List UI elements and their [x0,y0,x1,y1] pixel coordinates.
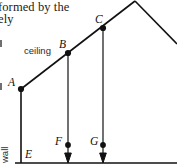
point-marker-c [100,25,106,31]
point-label-f: F [55,135,62,147]
rafter-right-line [135,1,177,44]
wall-label: wall [0,147,10,163]
force-arrowhead-f [65,153,72,163]
point-marker-a [18,86,24,92]
roof-truss-diagram [0,0,177,168]
point-marker-g [100,142,106,148]
point-label-c: C [95,13,103,25]
point-label-a: A [8,76,15,88]
point-label-b: B [59,38,66,50]
figure-page: formed by the ely [0,0,177,168]
point-label-g: G [90,135,98,147]
point-label-e: E [25,148,32,160]
ceiling-label: ceiling [24,45,51,56]
force-arrowhead-g [100,153,107,163]
point-marker-f [65,142,71,148]
point-marker-b [65,50,71,56]
